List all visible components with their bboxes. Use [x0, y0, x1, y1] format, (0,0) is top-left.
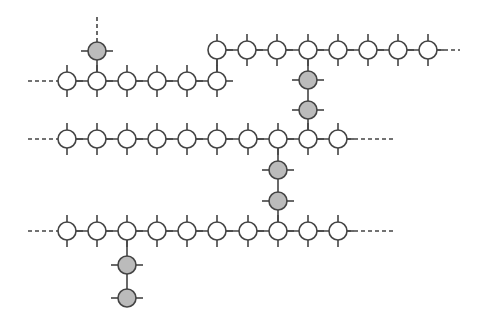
open-node: [359, 41, 377, 59]
open-node: [118, 222, 136, 240]
open-node: [238, 41, 256, 59]
open-node: [299, 130, 317, 148]
open-node: [419, 41, 437, 59]
open-node: [329, 41, 347, 59]
open-node: [208, 130, 226, 148]
filled-node: [118, 256, 136, 274]
open-node: [58, 222, 76, 240]
filled-node: [299, 71, 317, 89]
open-node: [239, 222, 257, 240]
open-node: [178, 222, 196, 240]
open-node: [118, 130, 136, 148]
open-node: [148, 130, 166, 148]
open-node: [148, 72, 166, 90]
filled-node: [299, 101, 317, 119]
open-node: [148, 222, 166, 240]
open-node: [118, 72, 136, 90]
open-node: [268, 41, 286, 59]
open-node: [88, 72, 106, 90]
open-node: [269, 130, 287, 148]
open-node: [88, 130, 106, 148]
open-node: [208, 222, 226, 240]
open-node: [389, 41, 407, 59]
open-node: [299, 41, 317, 59]
open-node: [239, 130, 257, 148]
open-node: [208, 72, 226, 90]
open-node: [178, 130, 196, 148]
open-node: [329, 222, 347, 240]
open-node: [299, 222, 317, 240]
filled-node: [269, 161, 287, 179]
filled-node: [118, 289, 136, 307]
open-node: [329, 130, 347, 148]
open-node: [58, 72, 76, 90]
open-node: [88, 222, 106, 240]
open-node: [269, 222, 287, 240]
filled-node: [269, 192, 287, 210]
open-node: [58, 130, 76, 148]
filled-node: [88, 42, 106, 60]
chain-diagram: [0, 0, 478, 319]
open-node: [178, 72, 196, 90]
open-node: [208, 41, 226, 59]
